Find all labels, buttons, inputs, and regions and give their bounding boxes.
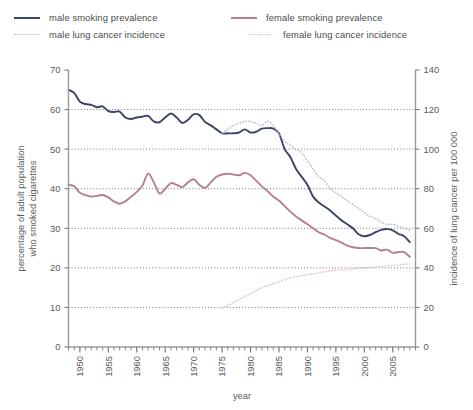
y-axis-right-tick-label: 0 — [424, 341, 429, 352]
y-axis-left-tick-label: 60 — [50, 104, 60, 115]
x-axis-title: year — [233, 390, 251, 401]
y-axis-right-tick-label: 100 — [424, 144, 440, 155]
plot-area: 0102030405060700204060801001201401950195… — [0, 0, 473, 410]
y-axis-right-tick-label: 120 — [424, 104, 440, 115]
series-line-female-lung-cancer-incidence — [222, 264, 410, 309]
y-axis-right-tick-label: 60 — [424, 223, 434, 234]
chart-canvas: 0102030405060700204060801001201401950195… — [0, 0, 473, 410]
y-axis-right-tick-label: 140 — [424, 64, 440, 75]
y-axis-left-tick-label: 30 — [50, 223, 60, 234]
x-axis-tick-label: 2005 — [387, 356, 398, 377]
y-axis-left-tick-label: 20 — [50, 262, 60, 273]
x-axis-tick-label: 1955 — [103, 356, 114, 377]
x-axis-tick-label: 1950 — [74, 356, 85, 377]
chart-root: male smoking prevalence male lung cancer… — [0, 0, 473, 410]
x-axis-tick-label: 1960 — [131, 356, 142, 377]
y-axis-left-tick-label: 10 — [50, 302, 60, 313]
x-axis-tick-label: 1975 — [216, 356, 227, 377]
y-axis-right-tick-label: 40 — [424, 262, 434, 273]
x-axis-tick-label: 1990 — [302, 356, 313, 377]
x-axis-tick-label: 1980 — [245, 356, 256, 377]
x-axis-tick-label: 1970 — [188, 356, 199, 377]
series-line-female-smoking-prevalence — [69, 173, 410, 257]
x-axis-tick-label: 2000 — [359, 356, 370, 377]
y-axis-left-title-line1: percentage of adult population — [15, 145, 26, 271]
y-axis-left-tick-label: 70 — [50, 64, 60, 75]
x-axis-tick-label: 1965 — [160, 356, 171, 377]
y-axis-right-title: incidence of lung cancer per 100 000 — [448, 132, 459, 286]
y-axis-left-tick-label: 50 — [50, 144, 60, 155]
x-axis-tick-label: 1995 — [330, 356, 341, 377]
y-axis-right-tick-label: 20 — [424, 302, 434, 313]
y-axis-left-tick-label: 40 — [50, 183, 60, 194]
y-axis-right-tick-label: 80 — [424, 183, 434, 194]
x-axis-tick-label: 1985 — [273, 356, 284, 377]
series-line-male-smoking-prevalence — [69, 90, 410, 242]
y-axis-left-title-line2: who smoked cigarettes — [27, 160, 38, 257]
y-axis-left-tick-label: 0 — [55, 341, 60, 352]
